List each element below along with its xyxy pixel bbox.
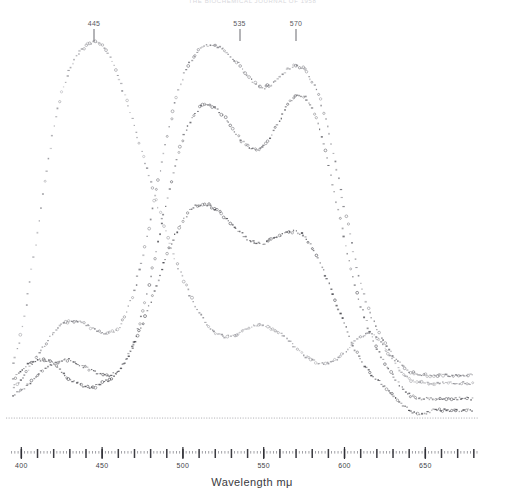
x-tick-label-650: 650 <box>419 462 432 469</box>
peak-label-445: 445 <box>88 20 101 27</box>
peak-label-570: 570 <box>290 20 303 27</box>
x-tick-label-450: 450 <box>96 462 109 469</box>
plot-canvas <box>0 0 505 497</box>
x-tick-label-400: 400 <box>15 462 28 469</box>
x-axis-label: Wavelength mμ <box>211 476 292 488</box>
peak-leader-tick-570 <box>296 29 297 41</box>
x-axis-ticks <box>11 447 477 459</box>
spectral-chart-figure: THE BIOCHEMICAL JOURNAL OF 1958 44553557… <box>0 0 505 497</box>
peak-leader-tick-445 <box>94 29 95 41</box>
x-tick-label-550: 550 <box>257 462 270 469</box>
x-tick-label-500: 500 <box>177 462 190 469</box>
x-tick-label-600: 600 <box>338 462 351 469</box>
curve-group <box>12 40 474 415</box>
data-series-curve-1 <box>12 40 473 386</box>
peak-label-535: 535 <box>233 20 246 27</box>
data-series-curve-2 <box>13 44 473 388</box>
data-series-curve-4 <box>12 203 473 415</box>
running-header: THE BIOCHEMICAL JOURNAL OF 1958 <box>0 0 505 4</box>
baseline-dotted-line <box>6 418 478 419</box>
data-series-curve-3 <box>12 95 473 401</box>
peak-leader-tick-535 <box>239 29 240 41</box>
